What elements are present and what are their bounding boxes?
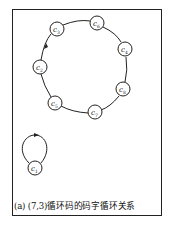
node-c3: c3 — [50, 22, 64, 36]
cycle-diagram: c3 c6 c4 c8 c7 c5 c2 c1 — [0, 0, 169, 227]
node-c2: c2 — [33, 60, 47, 74]
node-c4: c4 — [118, 42, 132, 56]
node-c7: c7 — [88, 105, 102, 119]
node-c1: c1 — [28, 161, 42, 175]
self-loop-arrowhead-icon — [34, 133, 39, 137]
node-c5: c5 — [48, 96, 62, 110]
self-loop-edge — [22, 135, 47, 163]
node-c8: c8 — [116, 82, 130, 96]
figure-caption: (a) (7,3)循环码的码字循环关系 — [14, 199, 162, 211]
node-c6: c6 — [90, 16, 104, 30]
